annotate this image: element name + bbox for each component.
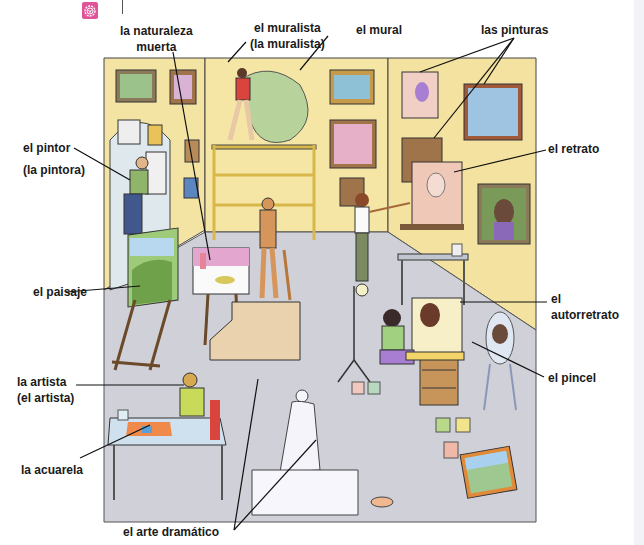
- floor-painting: [460, 446, 517, 498]
- label-mural: el mural: [356, 22, 402, 38]
- label-pincel: el pincel: [548, 370, 596, 386]
- label-muralista: el muralista (la muralista): [250, 20, 325, 52]
- art-studio-illustration: [0, 0, 644, 545]
- label-acuarela: la acuarela: [21, 462, 83, 478]
- label-paisaje: el paisaje: [33, 284, 87, 300]
- label-autorretrato: el autorretrato: [551, 291, 619, 323]
- label-pinturas: las pinturas: [481, 22, 548, 38]
- label-artista: la artista (el artista): [17, 374, 74, 406]
- label-retrato: el retrato: [548, 141, 599, 157]
- label-arte-dramatico: el arte dramático: [123, 524, 219, 540]
- label-pintor: el pintor (la pintora): [23, 140, 85, 178]
- label-naturaleza-muerta: la naturaleza muerta: [120, 23, 193, 55]
